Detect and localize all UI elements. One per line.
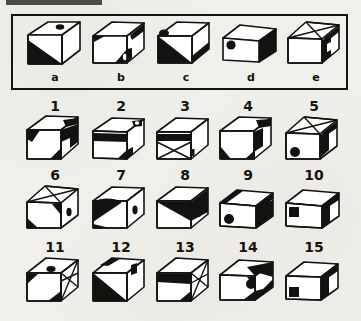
cube-6-label: 6	[22, 168, 88, 182]
reference-cube-a[interactable]: a	[22, 18, 88, 80]
cube-8-label: 8	[152, 168, 218, 182]
reference-cube-b[interactable]: b	[88, 18, 154, 80]
cube-13[interactable]	[152, 253, 218, 315]
reference-cube-c[interactable]: c	[153, 18, 219, 80]
cube-3-label: 3	[152, 99, 218, 113]
cube-13-label: 13	[152, 240, 218, 254]
cube-2-label: 2	[88, 99, 154, 113]
reference-cube-d-label: d	[218, 72, 284, 83]
cube-12[interactable]	[88, 253, 154, 315]
reference-cube-c-label: c	[153, 72, 219, 83]
cube-10-label: 10	[281, 168, 347, 182]
cube-8[interactable]	[152, 181, 218, 243]
cube-11-label: 11	[22, 240, 88, 254]
cube-15[interactable]	[281, 253, 347, 315]
cube-1[interactable]	[22, 112, 88, 174]
cube-2[interactable]	[88, 112, 154, 174]
cube-6[interactable]	[22, 181, 88, 243]
cube-10[interactable]	[281, 181, 347, 243]
cube-15-label: 15	[281, 240, 347, 254]
reference-cube-d[interactable]: d	[218, 18, 284, 80]
reference-cube-a-label: a	[22, 72, 88, 83]
cube-9-label: 9	[215, 168, 281, 182]
cube-4[interactable]	[215, 112, 281, 174]
reference-cube-b-label: b	[88, 72, 154, 83]
cube-3[interactable]	[152, 112, 218, 174]
reference-cube-e-label: e	[283, 72, 349, 83]
page-top-scrap	[6, 0, 102, 5]
cube-5-label: 5	[281, 99, 347, 113]
cube-11[interactable]	[22, 253, 88, 315]
cube-9[interactable]	[215, 181, 281, 243]
test-sheet: a b	[0, 0, 361, 321]
cube-7[interactable]	[88, 181, 154, 243]
cube-5[interactable]	[281, 112, 347, 174]
cube-14[interactable]	[215, 253, 281, 315]
cube-1-label: 1	[22, 99, 88, 113]
cube-12-label: 12	[88, 240, 154, 254]
cube-7-label: 7	[88, 168, 154, 182]
cube-14-label: 14	[215, 240, 281, 254]
cube-4-label: 4	[215, 99, 281, 113]
reference-cube-e[interactable]: e	[283, 18, 349, 80]
